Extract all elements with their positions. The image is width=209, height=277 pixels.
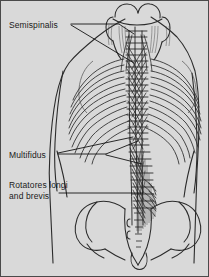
label-semispinalis: Semispinalis: [9, 20, 58, 31]
anatomy-figure: Semispinalis Multifidus Rotatores longi …: [0, 0, 209, 277]
anatomy-illustration: [1, 1, 209, 277]
lumbosacral-detail: [134, 213, 143, 247]
label-rotatores-line1: Rotatores longi: [9, 180, 68, 190]
label-multifidus: Multifidus: [9, 150, 46, 161]
semispinalis-muscle: [121, 35, 152, 149]
label-rotatores: Rotatores longi and brevis: [9, 180, 68, 202]
label-rotatores-line2: and brevis: [9, 191, 68, 202]
torso-outline: [49, 17, 199, 263]
